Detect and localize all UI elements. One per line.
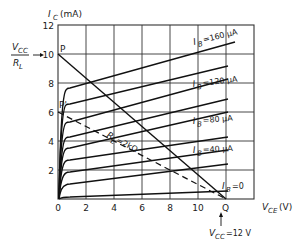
transistor-output-characteristics-chart: 12 10 8 6 4 2 0 2 4 6 8 10 I C (mA) V CE… <box>0 0 297 247</box>
svg-text:I: I <box>222 181 225 191</box>
svg-text:10: 10 <box>43 50 55 60</box>
svg-text:CE: CE <box>268 207 278 215</box>
ib-120-label: I B =120 µA <box>192 74 239 92</box>
svg-text:4: 4 <box>111 203 117 213</box>
svg-text:C: C <box>53 14 58 22</box>
svg-text:CC: CC <box>18 47 28 55</box>
svg-text:I: I <box>192 79 196 89</box>
point-p-label: P <box>60 44 66 54</box>
svg-text:2: 2 <box>48 166 54 176</box>
svg-text:=120 µA: =120 µA <box>202 74 238 87</box>
x-tick-labels: 0 2 4 6 8 10 <box>55 203 204 213</box>
svg-text:12: 12 <box>43 21 54 31</box>
svg-text:B: B <box>197 120 203 128</box>
svg-text:6: 6 <box>48 108 54 118</box>
x-axis-title: V CE (V) <box>262 202 292 215</box>
svg-text:B: B <box>197 83 203 92</box>
vcc-annotation: V CC =12 V <box>209 212 251 241</box>
svg-text:=12 V: =12 V <box>226 229 251 238</box>
svg-text:B: B <box>197 150 202 158</box>
point-p-prime-label: P' <box>59 100 67 110</box>
y-axis-title: I C (mA) <box>48 9 82 22</box>
svg-text:8: 8 <box>48 79 54 89</box>
ib-40-label: I B =40 µA <box>193 143 234 158</box>
svg-text:6: 6 <box>139 203 145 213</box>
svg-text:=40 µA: =40 µA <box>203 144 234 155</box>
svg-text:(V): (V) <box>279 202 292 212</box>
svg-text:I: I <box>48 9 51 19</box>
svg-text:I: I <box>193 145 197 155</box>
svg-text:B: B <box>226 186 231 194</box>
svg-text:(mA): (mA) <box>60 9 82 19</box>
svg-text:=0: =0 <box>232 182 244 191</box>
svg-text:0: 0 <box>55 203 61 213</box>
ib-160-label: I B =160 µA <box>192 26 239 50</box>
y-tick-labels: 12 10 8 6 4 2 <box>43 21 55 176</box>
point-q-label: Q <box>222 203 229 213</box>
svg-text:4: 4 <box>48 137 54 147</box>
svg-text:8: 8 <box>167 203 173 213</box>
ib-80-label: I B =80 µA <box>192 112 233 128</box>
vcc-over-rl-annotation: V CC R L <box>11 42 44 71</box>
ib-0-label: I B =0 <box>222 181 244 194</box>
curve-ib-120 <box>59 79 228 199</box>
svg-text:=80 µA: =80 µA <box>202 113 233 125</box>
curve-ib-0 <box>59 191 228 199</box>
svg-text:I: I <box>192 116 196 126</box>
svg-text:10: 10 <box>192 203 204 213</box>
svg-text:L: L <box>19 63 23 71</box>
svg-text:CC: CC <box>215 233 225 241</box>
svg-text:2: 2 <box>83 203 89 213</box>
